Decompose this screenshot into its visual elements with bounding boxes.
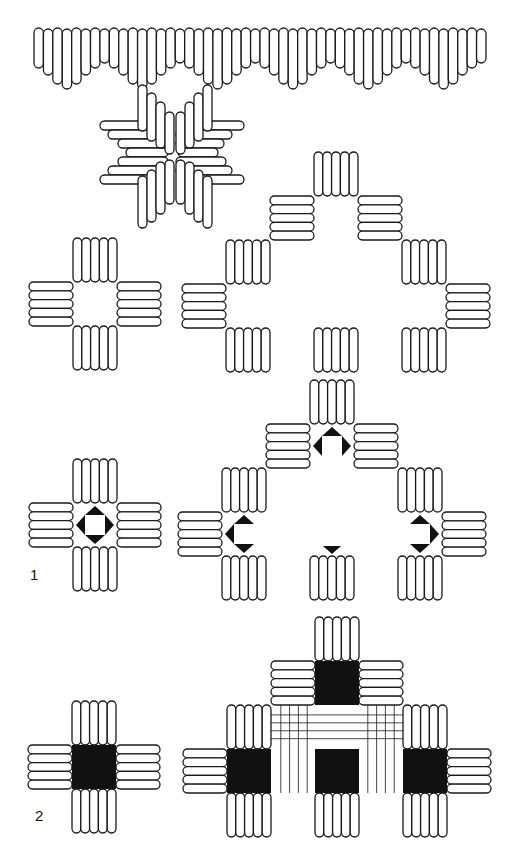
row-triangles <box>29 380 486 600</box>
pattern-diagram <box>0 0 513 849</box>
row-filled <box>28 617 491 837</box>
figure-label-2: 2 <box>35 807 43 824</box>
fringe-border <box>34 28 486 89</box>
star-motif <box>100 85 244 228</box>
row-plain <box>29 152 490 372</box>
figure-label-1: 1 <box>30 566 38 583</box>
